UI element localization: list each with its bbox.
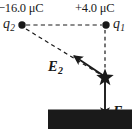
charge-dot-q2 [18, 21, 25, 28]
charge-name-q2-subscript: 2 [10, 23, 15, 33]
vector-label-e2-subscript: 2 [58, 65, 63, 76]
vector-label-e1-symbol: E [113, 103, 123, 119]
guide-line-q2-diagonal [26, 29, 103, 76]
charge-value-q1: +4.0 μC [75, 2, 114, 15]
charge-name-q2-symbol: q [3, 16, 10, 31]
charge-name-q1-symbol: q [113, 16, 120, 31]
charge-name-q1-subscript: 1 [120, 23, 125, 33]
vector-label-e1-subscript: 1 [123, 110, 128, 121]
charge-dot-q1 [102, 21, 109, 28]
vector-label-e2: E2 [48, 59, 63, 76]
charge-name-q1: q1 [113, 17, 125, 33]
electric-field-diagram: −16.0 μC +4.0 μC q2 q1 E2 E1 [0, 0, 132, 129]
charge-value-q2: −16.0 μC [0, 2, 44, 15]
vector-arrow-e2 [74, 56, 104, 76]
charge-name-q2: q2 [3, 17, 15, 33]
vector-label-e2-symbol: E [48, 58, 58, 74]
vector-label-e1: E1 [113, 104, 128, 121]
